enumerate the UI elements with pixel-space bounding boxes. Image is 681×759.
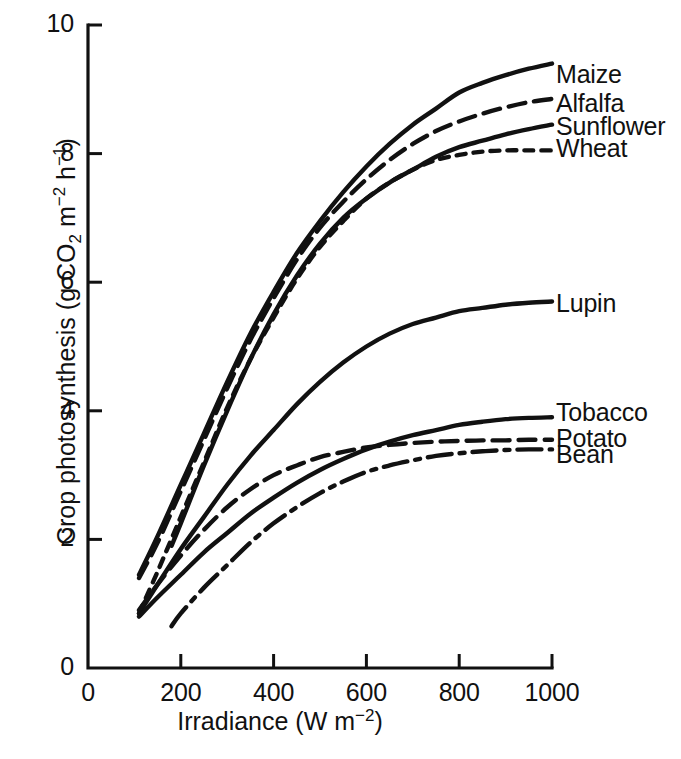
y-axis-title-exponent-2: −1: [50, 147, 69, 166]
crop-photosynthesis-chart: 0246810 02004006008001000 MaizeAlfalfaSu…: [0, 0, 681, 759]
series-label-wheat: Wheat: [556, 134, 627, 163]
series-label-tobacco: Tobacco: [556, 398, 648, 427]
axes: [88, 25, 552, 668]
x-tick-label: 0: [38, 678, 138, 707]
x-tick-label: 200: [131, 678, 231, 707]
x-tick-label: 800: [409, 678, 509, 707]
x-tick-label: 400: [224, 678, 324, 707]
y-axis-title-exponent-1: −2: [50, 187, 69, 206]
y-axis-title-tail: ): [52, 138, 80, 146]
y-axis-title-mid-2: h: [52, 166, 80, 187]
y-tick-label: 0: [2, 652, 74, 681]
x-tick-label: 600: [316, 678, 416, 707]
y-axis-title-mid: m: [52, 206, 80, 234]
curve-bean: [172, 449, 552, 626]
series-label-lupin: Lupin: [556, 289, 616, 318]
curve-wheat: [139, 150, 552, 613]
y-axis-title: Crop photosynthesis (g CO2 m−2 h−1): [50, 32, 85, 652]
x-axis-title: Irradiance (W m−2): [0, 706, 560, 736]
axis-lines: [88, 25, 552, 668]
x-tick-marks: [181, 654, 552, 668]
series-label-maize: Maize: [556, 60, 622, 89]
y-axis-title-pre: Crop photosynthesis (g CO: [52, 244, 80, 546]
y-axis-title-sub: 2: [66, 234, 85, 243]
data-curves: [139, 64, 552, 627]
x-axis-title-text: Irradiance (W m: [177, 707, 355, 735]
x-axis-title-tail: ): [374, 707, 382, 735]
x-tick-label: 1000: [502, 678, 602, 707]
curve-alfalfa: [139, 99, 552, 578]
x-axis-title-exponent: −2: [355, 706, 374, 725]
series-label-bean: Bean: [556, 440, 614, 469]
y-tick-marks: [88, 25, 102, 539]
